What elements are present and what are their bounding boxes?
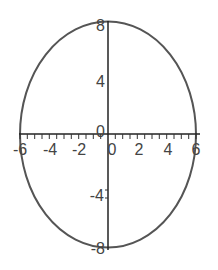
y-tick-label: -4 <box>90 188 104 204</box>
y-tick-label: 4 <box>96 74 105 90</box>
y-tick-label: 0 <box>96 124 105 140</box>
x-tick-label: 0 <box>108 142 117 158</box>
x-tick-label: -4 <box>43 142 57 158</box>
ellipse-plot <box>0 0 218 270</box>
x-tick-label: -2 <box>72 142 86 158</box>
y-tick-label: 8 <box>96 18 105 34</box>
x-tick-label: 4 <box>164 142 173 158</box>
x-tick-label: -6 <box>13 142 27 158</box>
y-tick-label: -8 <box>91 241 105 257</box>
x-tick-label: 2 <box>135 142 144 158</box>
x-tick-label: 6 <box>192 142 201 158</box>
